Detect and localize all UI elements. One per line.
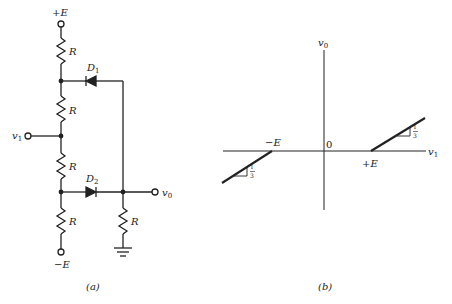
v0-label: v0 bbox=[162, 187, 172, 200]
caption-a: (a) bbox=[86, 281, 100, 292]
positive-slope-segment bbox=[371, 118, 425, 151]
plus-e-label: +E bbox=[52, 7, 68, 18]
d1-label: D1 bbox=[86, 62, 100, 75]
diode-d2 bbox=[86, 187, 96, 197]
neg-e-tick: −E bbox=[265, 137, 281, 148]
x-axis-label: v1 bbox=[428, 146, 438, 159]
resistor-r4 bbox=[57, 208, 65, 234]
slope-neg-num: 1 bbox=[250, 163, 254, 170]
diode-d1 bbox=[86, 76, 96, 86]
resistor-r1 bbox=[57, 38, 65, 64]
r5-label: R bbox=[130, 216, 139, 227]
v1-label: v1 bbox=[12, 130, 22, 143]
r4-label: R bbox=[68, 216, 77, 227]
slope-pos-num: 1 bbox=[413, 123, 417, 130]
r2-label: R bbox=[68, 105, 77, 116]
pos-e-tick: +E bbox=[362, 158, 378, 169]
r3-label: R bbox=[68, 161, 77, 172]
resistor-r5 bbox=[119, 208, 127, 234]
plus-e-terminal bbox=[58, 21, 64, 27]
slope-pos-den: 3 bbox=[413, 132, 417, 139]
resistor-r3 bbox=[57, 153, 65, 179]
d2-label: D2 bbox=[85, 173, 99, 186]
minus-e-terminal bbox=[58, 249, 64, 255]
figure-canvas: +E R D1 R v1 R D2 v0 R R −E (a) v0 v1 0 … bbox=[0, 0, 452, 304]
ground-icon bbox=[114, 248, 132, 256]
r1-label: R bbox=[68, 46, 77, 57]
v1-input-terminal bbox=[25, 133, 31, 139]
resistor-r2 bbox=[57, 96, 65, 122]
slope-neg-den: 3 bbox=[250, 172, 254, 179]
minus-e-label: −E bbox=[54, 259, 70, 270]
y-axis-label: v0 bbox=[318, 37, 328, 50]
transfer-plot bbox=[222, 50, 426, 210]
origin-label: 0 bbox=[326, 139, 332, 150]
caption-b: (b) bbox=[318, 281, 332, 292]
v0-output-terminal bbox=[152, 189, 158, 195]
